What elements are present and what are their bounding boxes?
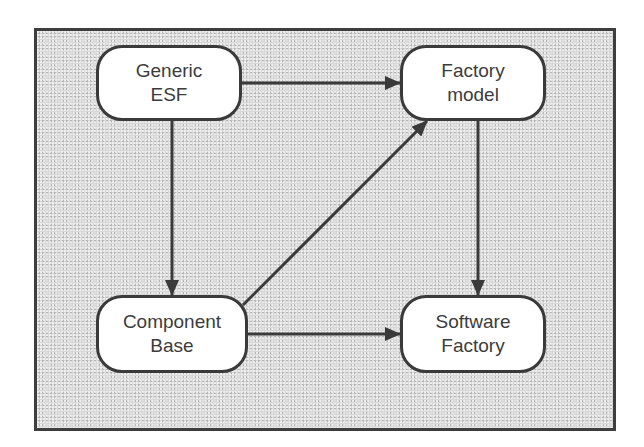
node-label-line: model (447, 83, 499, 107)
node-label-line: ESF (151, 83, 188, 107)
node-label-line: Base (150, 334, 193, 358)
node-label-line: Software (436, 310, 511, 334)
node-label-line: Factory (441, 59, 504, 83)
node-label-line: Generic (136, 59, 203, 83)
node-generic-esf: Generic ESF (96, 45, 242, 121)
node-factory-model: Factory model (400, 45, 546, 121)
node-component-base: Component Base (96, 295, 248, 373)
node-label-line: Factory (441, 334, 504, 358)
node-software-factory: Software Factory (400, 295, 546, 373)
node-label-line: Component (123, 310, 221, 334)
